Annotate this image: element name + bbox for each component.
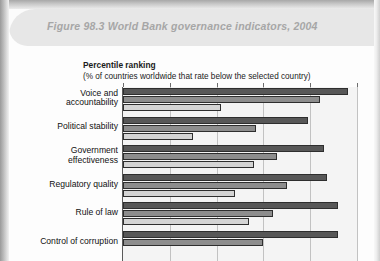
axis-tick-100 — [357, 83, 358, 87]
bar — [123, 174, 327, 181]
category-label-line: Regulatory quality — [9, 180, 118, 190]
bar — [123, 210, 273, 217]
bar — [123, 231, 338, 238]
bar — [123, 218, 249, 225]
figure-panel: Figure 98.3 World Bank governance indica… — [9, 9, 374, 261]
category-label: Rule of law — [9, 208, 118, 218]
bar — [123, 153, 277, 160]
bar — [123, 161, 254, 168]
category-label: Voice andaccountability — [9, 89, 118, 108]
axis-tick-40 — [217, 83, 218, 87]
scan-edge-left — [0, 0, 9, 261]
plot-area: Voice andaccountabilityPolitical stabili… — [122, 87, 357, 261]
category-label: Control of corruption — [9, 237, 118, 247]
bar — [123, 239, 263, 246]
bar — [123, 190, 235, 197]
scan-edge-right — [374, 0, 380, 261]
bar — [123, 145, 324, 152]
bar — [123, 117, 308, 124]
page-background: Figure 98.3 World Bank governance indica… — [0, 0, 380, 261]
category-axis-labels: Voice andaccountabilityPolitical stabili… — [9, 87, 118, 261]
bar — [123, 104, 221, 111]
category-label: Governmenteffectiveness — [9, 146, 118, 165]
bar — [123, 96, 320, 103]
category-label: Regulatory quality — [9, 180, 118, 190]
axis-tick-80 — [310, 83, 311, 87]
category-label-line: Rule of law — [9, 208, 118, 218]
bar — [123, 202, 338, 209]
axis-tick-20 — [170, 83, 171, 87]
bar — [123, 125, 256, 132]
scan-edge-top — [0, 0, 380, 9]
axis-tick-60 — [263, 83, 264, 87]
bar — [123, 133, 193, 140]
gridline-100 — [357, 87, 358, 261]
category-label-line: Control of corruption — [9, 237, 118, 247]
bar — [123, 182, 287, 189]
axis-tick-0 — [123, 83, 124, 87]
category-label-line: accountability — [9, 98, 118, 108]
category-label: Political stability — [9, 122, 118, 132]
bar — [123, 88, 348, 95]
bar-chart: Voice andaccountabilityPolitical stabili… — [9, 9, 374, 261]
category-label-line: effectiveness — [9, 156, 118, 166]
category-label-line: Political stability — [9, 122, 118, 132]
